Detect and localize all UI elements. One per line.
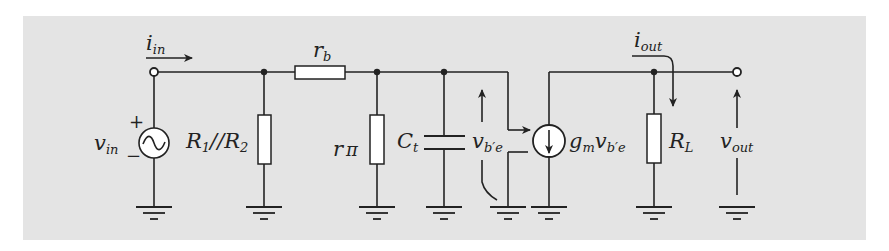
input-voltage-label: vin xyxy=(94,131,118,157)
rpi-label: rπ xyxy=(333,137,359,161)
input-current-label: iin xyxy=(146,31,165,57)
ground-icon xyxy=(136,207,172,219)
output-terminal-icon xyxy=(733,68,741,76)
ct-label: Ct xyxy=(397,129,419,155)
resistor-rb-icon xyxy=(295,66,345,79)
output-current-label: iout xyxy=(634,28,663,54)
ground-icon xyxy=(426,207,462,219)
ac-voltage-source-icon xyxy=(139,76,169,207)
resistor-r1r2-icon xyxy=(258,72,271,207)
ground-icon xyxy=(531,207,567,219)
dependent-source-label: gmvb′e xyxy=(569,129,626,155)
input-terminal-icon xyxy=(150,68,158,76)
rb-label: rb xyxy=(313,38,331,64)
ground-icon xyxy=(636,207,672,219)
ground-icon xyxy=(359,207,395,219)
resistor-rpi-icon xyxy=(370,72,384,207)
ground-icon xyxy=(719,207,755,219)
ground-icon xyxy=(490,207,526,219)
output-current-arrow-icon xyxy=(632,56,673,106)
control-voltage-label: vb′e xyxy=(472,129,503,155)
ground-icon xyxy=(246,207,282,219)
control-wire xyxy=(508,72,530,207)
capacitor-ct-icon xyxy=(424,72,465,207)
rl-label: RL xyxy=(668,129,693,155)
minus-sign: − xyxy=(126,145,141,166)
output-voltage-label: vout xyxy=(720,129,754,155)
dependent-current-source-icon xyxy=(533,72,737,207)
resistor-rl-icon xyxy=(647,72,661,207)
r1r2-label: R1//R2 xyxy=(185,129,248,155)
plus-sign: + xyxy=(129,111,144,132)
circuit-diagram: iin + − vin R1//R2 rb rπ Ct xyxy=(0,0,889,251)
